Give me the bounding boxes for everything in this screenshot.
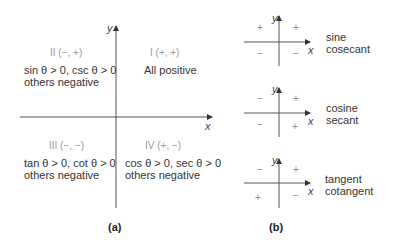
mini-1-y-label: y [272,12,278,24]
mini-3-sign-i: + [293,164,299,175]
mini-1-name-2: cosecant [326,43,370,55]
mini-2-x-label: x [308,115,314,127]
mini-2-name-1: cosine [326,102,358,114]
quadrant-iv-line-1: cos θ > 0, sec θ > 0 [125,157,221,169]
x-axis-label-a: x [205,120,211,132]
quadrant-i-line-1: All positive [144,64,197,76]
mini-2-name-2: secant [326,114,358,126]
mini-1-sign-iii: − [257,48,263,59]
mini-1-sign-i: + [293,22,299,33]
y-axis-label-a: y [107,22,113,34]
mini-2-sign-iv: + [292,121,298,132]
mini-3-sign-ii: − [257,164,263,175]
mini-2-sign-iii: − [257,119,263,130]
quadrant-ii-line-1: sin θ > 0, csc θ > 0 [24,64,116,76]
mini-2-sign-i: + [293,93,299,104]
mini-3-name-1: tangent [325,173,362,185]
mini-3-y-label: y [272,154,278,166]
mini-3-x-label: x [308,185,314,197]
quadrant-iii-line-2: others negative [24,169,99,181]
mini-1-name-1: sine [326,31,346,43]
mini-1-sign-ii: + [257,22,263,33]
mini-1-sign-iv: − [293,48,299,59]
mini-3-name-2: cotangent [325,185,373,197]
mini-2-y-label: y [272,83,278,95]
quadrant-ii-line-2: others negative [24,76,99,88]
panel-b-label: (b) [269,221,283,233]
quadrant-iv-label: IV (+, −) [145,140,181,151]
mini-3-sign-iii: + [255,192,261,203]
mini-2-sign-ii: − [257,93,263,104]
mini-3-sign-iv: − [293,190,299,201]
quadrant-iii-label: III (−, −) [49,140,84,151]
quadrant-i-label: I (+, +) [150,47,179,58]
quadrant-ii-label: II (−, +) [50,47,82,58]
mini-1-x-label: x [308,44,314,56]
panel-a-label: (a) [108,221,121,233]
quadrant-iii-line-1: tan θ > 0, cot θ > 0 [24,157,116,169]
quadrant-iv-line-2: others negative [125,169,200,181]
